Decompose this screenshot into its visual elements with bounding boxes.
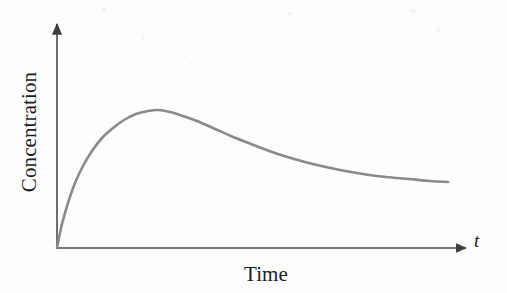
y-axis-label: Concentration — [16, 52, 42, 212]
x-axis-variable-label: t — [474, 230, 479, 252]
concentration-curve — [57, 110, 448, 248]
x-axis-label: Time — [206, 262, 326, 286]
plot-area — [0, 0, 507, 293]
concentration-time-figure: Concentration Time t — [0, 0, 507, 293]
